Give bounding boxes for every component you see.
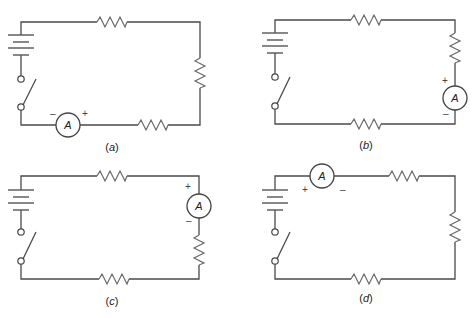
wire [21,176,199,279]
plus-sign: + [82,108,88,119]
resistor-icon [389,171,419,181]
caption-b: (b) [359,139,372,151]
ammeter-icon: A [310,164,334,188]
open-switch-icon [272,74,290,109]
circuit-d: A + – (d) [262,164,460,304]
minus-sign: – [186,215,192,226]
ammeter-icon: A [443,86,467,110]
plus-sign: + [185,181,191,192]
wire [21,22,200,125]
minus-sign: – [340,184,346,195]
circuit-a: A – + (a) [8,17,205,153]
resistor-icon [351,119,381,129]
circuit-c: A + – (c) [8,171,211,307]
resistor-icon [138,120,168,130]
open-switch-icon [18,229,36,264]
minus-sign: – [443,108,449,119]
svg-text:A: A [194,200,202,212]
resistor-icon [97,171,127,181]
open-switch-icon [18,76,36,110]
caption-a: (a) [105,141,118,153]
resistor-icon [450,33,460,63]
circuit-b: A + – (b) [262,15,467,151]
wire [275,20,455,124]
svg-text:A: A [317,170,325,182]
resistor-icon [99,274,129,284]
resistor-icon [195,58,205,88]
plus-sign: + [302,184,308,195]
resistor-icon [351,15,381,25]
battery-icon [262,190,288,210]
svg-text:A: A [450,92,458,104]
resistor-icon [351,274,381,284]
battery-icon [262,33,288,53]
caption-d: (d) [359,292,372,304]
battery-icon [8,35,34,55]
circuit-figure: A – + (a) A + – (b) [0,0,476,318]
resistor-icon [97,17,127,27]
svg-text:A: A [63,119,71,131]
open-switch-icon [272,229,290,264]
minus-sign: – [50,108,56,119]
ammeter-icon: A [56,113,80,137]
resistor-icon [450,212,460,242]
plus-sign: + [442,75,448,86]
caption-c: (c) [106,295,119,307]
battery-icon [8,190,34,210]
resistor-icon [194,235,204,265]
